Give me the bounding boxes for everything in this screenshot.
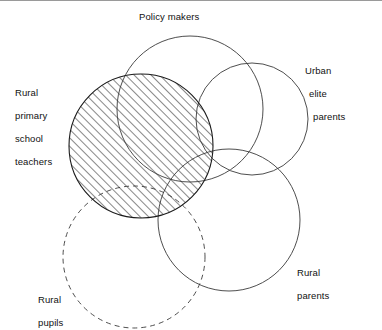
- set-label-urban-elite-parents-line-2: elite: [305, 88, 345, 100]
- set-label-rural-parents-line-1: Rural: [297, 267, 329, 279]
- set-label-urban-elite-parents: Urban elite parents: [305, 53, 345, 134]
- set-label-rural-pupils-line-1: Rural: [38, 294, 63, 306]
- set-label-rural-primary-school-teachers-line-2: primary: [15, 110, 52, 122]
- set-label-rural-parents-line-2: parents: [297, 290, 329, 302]
- venn-diagram-figure: Policy makers Urban elite parents Rural …: [0, 0, 382, 330]
- set-label-rural-primary-school-teachers-line-1: Rural: [15, 87, 52, 99]
- set-label-rural-primary-school-teachers-line-3: school: [15, 133, 52, 145]
- set-label-urban-elite-parents-line-1: Urban: [305, 65, 345, 77]
- set-circle-urban-elite-parents[interactable]: [196, 63, 308, 175]
- set-label-rural-pupils-line-2: pupils: [38, 317, 63, 329]
- set-label-rural-pupils: Rural pupils: [38, 282, 63, 330]
- set-label-rural-primary-school-teachers-line-4: teachers: [15, 156, 52, 168]
- set-label-rural-primary-school-teachers: Rural primary school teachers: [15, 75, 52, 179]
- set-label-urban-elite-parents-line-3: parents: [305, 111, 345, 123]
- set-label-rural-parents: Rural parents: [297, 255, 329, 313]
- set-label-policy-makers: Policy makers: [139, 11, 199, 23]
